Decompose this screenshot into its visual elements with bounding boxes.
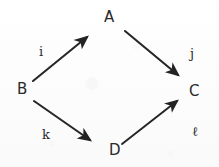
- edge-label-l: ℓ: [192, 125, 198, 138]
- edge-arrow-l: [122, 101, 177, 144]
- edge-label-k: k: [42, 128, 50, 141]
- edge-label-j: j: [190, 47, 194, 60]
- diagram-canvas: A B C D i j k ℓ: [0, 0, 219, 167]
- edge-label-i: i: [39, 45, 43, 58]
- node-label-c: C: [189, 84, 200, 99]
- node-label-a: A: [104, 10, 115, 25]
- node-label-b: B: [17, 82, 28, 97]
- edge-arrow-j: [125, 31, 178, 75]
- node-label-d: D: [109, 143, 121, 158]
